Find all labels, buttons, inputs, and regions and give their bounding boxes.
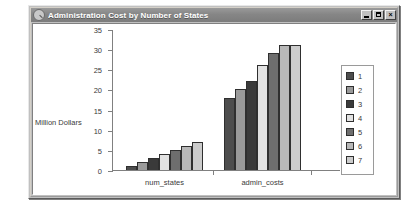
y-axis-tick-label: 0 (98, 167, 102, 176)
legend-label: 2 (358, 86, 362, 95)
legend-swatch-icon (346, 86, 354, 94)
bar-chart: Million Dollars 05101520253035 1234567 n… (33, 24, 395, 194)
x-axis-category-label: num_states (145, 178, 184, 187)
legend-item: 3 (346, 97, 373, 111)
bar-admin_costs-1 (224, 98, 235, 171)
window-client-area: Million Dollars 05101520253035 1234567 n… (32, 23, 396, 195)
y-axis-tick-label: 25 (94, 66, 102, 75)
y-axis-tick: 35 (108, 30, 113, 31)
screenshot-root: Administration Cost by Number of States … (0, 0, 404, 223)
bar-num_states-2 (137, 162, 148, 170)
y-axis-tick-label: 5 (98, 146, 102, 155)
bars-container (112, 30, 312, 170)
legend-item: 6 (346, 139, 373, 153)
minimize-button[interactable] (361, 10, 372, 20)
maximize-button[interactable] (373, 10, 384, 20)
y-axis-tick: 5 (108, 151, 113, 152)
legend-label: 5 (358, 128, 362, 137)
legend-item: 2 (346, 83, 373, 97)
legend-label: 4 (358, 114, 362, 123)
y-axis-tick-label: 10 (94, 126, 102, 135)
legend-swatch-icon (346, 72, 354, 80)
y-axis-tick: 30 (108, 50, 113, 51)
y-axis-tick-label: 15 (94, 106, 102, 115)
bar-num_states-1 (126, 166, 137, 170)
legend-label: 1 (358, 72, 362, 81)
chart-legend: 1234567 (341, 65, 374, 175)
bar-num_states-5 (170, 150, 181, 170)
bar-admin_costs-7 (290, 45, 301, 170)
legend-label: 7 (358, 156, 362, 165)
y-axis-label: Million Dollars (35, 118, 82, 127)
bar-admin_costs-3 (246, 81, 257, 170)
app-magnifier-icon (33, 9, 45, 21)
legend-swatch-icon (346, 114, 354, 122)
legend-item: 1 (346, 69, 373, 83)
bar-admin_costs-5 (268, 53, 279, 170)
legend-swatch-icon (346, 156, 354, 164)
legend-item: 7 (346, 153, 373, 167)
legend-swatch-icon (346, 142, 354, 150)
bar-admin_costs-6 (279, 45, 290, 170)
y-axis-tick: 25 (108, 70, 113, 71)
bar-num_states-6 (181, 146, 192, 170)
bar-num_states-7 (192, 142, 203, 170)
x-axis-tick (213, 170, 214, 175)
window-titlebar[interactable]: Administration Cost by Number of States … (31, 8, 397, 22)
plot-area: 05101520253035 (112, 30, 312, 171)
y-axis-tick: 15 (108, 111, 113, 112)
window-controls: × (361, 10, 396, 20)
y-axis-tick: 10 (108, 131, 113, 132)
bar-num_states-4 (159, 154, 170, 170)
legend-label: 3 (358, 100, 362, 109)
bar-admin_costs-2 (235, 89, 246, 170)
y-axis-tick-label: 35 (94, 26, 102, 35)
legend-swatch-icon (346, 128, 354, 136)
y-axis-tick-label: 30 (94, 46, 102, 55)
chart-window: Administration Cost by Number of States … (28, 5, 400, 199)
x-axis-tick (311, 170, 312, 175)
close-icon: × (386, 11, 395, 19)
bar-admin_costs-4 (257, 65, 268, 170)
x-axis-category-label: admin_costs (241, 178, 283, 187)
close-button[interactable]: × (385, 10, 396, 20)
legend-item: 4 (346, 111, 373, 125)
window-title: Administration Cost by Number of States (48, 11, 361, 20)
legend-swatch-icon (346, 100, 354, 108)
bar-num_states-3 (148, 158, 159, 170)
y-axis-tick-label: 20 (94, 86, 102, 95)
legend-label: 6 (358, 142, 362, 151)
legend-item: 5 (346, 125, 373, 139)
y-axis-tick: 0 (108, 171, 113, 172)
x-axis-line (112, 170, 340, 171)
y-axis-tick: 20 (108, 90, 113, 91)
